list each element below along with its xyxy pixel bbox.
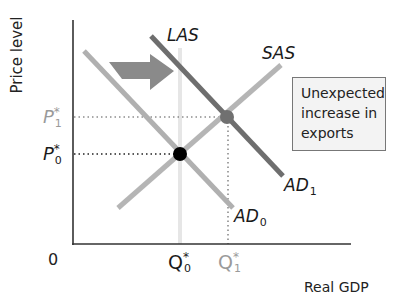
origin-label: 0 [48, 252, 58, 268]
las-label: LAS [167, 27, 199, 44]
y-axis-label: Price level [10, 16, 25, 93]
callout-line: Unexpected [301, 83, 385, 103]
ad1-label: AD1 [284, 177, 317, 197]
p1-label: P*1 [43, 108, 62, 128]
q1-label: Q*1 [218, 253, 241, 273]
callout-box: Unexpected increase in exports [292, 77, 386, 151]
callout-line: increase in [301, 103, 385, 123]
x-axis-label: Real GDP [304, 280, 369, 294]
ad0-label: AD0 [234, 208, 267, 228]
new-equilibrium-point [220, 110, 234, 124]
p0-label: P*0 [43, 145, 62, 165]
initial-equilibrium-point [173, 147, 187, 161]
sas-label: SAS [262, 45, 295, 62]
callout-line: exports [301, 123, 385, 143]
q0-label: Q*0 [168, 253, 191, 273]
